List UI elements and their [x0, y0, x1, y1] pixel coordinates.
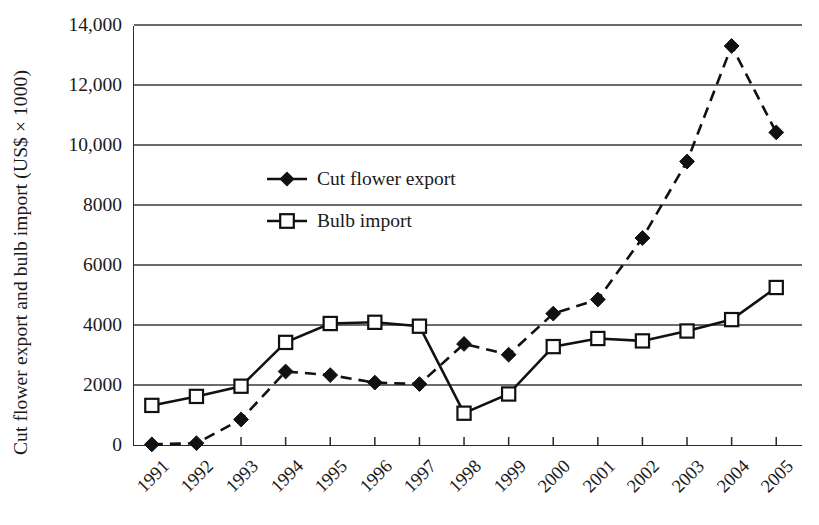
- data-point-marker: [368, 316, 381, 329]
- data-point-marker: [234, 380, 247, 393]
- legend-item-cut-flower-export: Cut flower export: [266, 166, 456, 192]
- filled-diamond-marker-icon: [266, 168, 308, 190]
- data-point-marker: [680, 324, 693, 337]
- data-point-marker: [145, 399, 158, 412]
- data-point-marker: [323, 368, 338, 383]
- open-square-marker-icon: [266, 210, 308, 232]
- x-tick-label: 2005: [757, 456, 798, 497]
- x-tick-label: 1999: [489, 456, 530, 497]
- data-point-marker: [590, 292, 605, 307]
- data-point-marker: [680, 154, 695, 169]
- x-tick-label: 2002: [623, 456, 664, 497]
- data-point-marker: [457, 407, 470, 420]
- data-point-marker: [769, 125, 784, 140]
- y-tick-label: 4000: [83, 314, 122, 336]
- x-axis-tick-marks: [152, 437, 776, 445]
- x-tick-label: 1996: [356, 456, 397, 497]
- legend-item-bulb-import: Bulb import: [266, 208, 412, 234]
- data-point-marker: [636, 334, 649, 347]
- data-point-marker: [547, 340, 560, 353]
- x-axis-tick-labels: 1991199219931994199519961997199819992000…: [133, 446, 802, 525]
- x-tick-label: 1993: [222, 456, 263, 497]
- data-point-marker: [234, 412, 249, 427]
- series-layer: [144, 39, 783, 452]
- data-point-marker: [324, 317, 337, 330]
- data-point-marker: [501, 347, 516, 362]
- line-chart-figure: Cut flower export and bulb import (US$ ×…: [0, 0, 819, 525]
- x-tick-label: 2003: [668, 456, 709, 497]
- y-tick-label: 10,000: [68, 134, 122, 156]
- x-tick-label: 2004: [712, 456, 753, 497]
- legend-label-cut-flower-export: Cut flower export: [317, 168, 456, 190]
- data-point-marker: [279, 336, 292, 349]
- y-tick-label: 14,000: [68, 14, 122, 36]
- y-tick-label: 8000: [83, 194, 122, 216]
- x-tick-label: 2001: [579, 456, 620, 497]
- x-tick-label: 1991: [133, 456, 174, 497]
- y-tick-label: 0: [112, 434, 122, 456]
- legend-label-bulb-import: Bulb import: [317, 210, 412, 232]
- data-point-marker: [413, 320, 426, 333]
- x-tick-label: 1995: [311, 456, 352, 497]
- data-point-marker: [190, 390, 203, 403]
- data-point-marker: [725, 313, 738, 326]
- data-point-marker: [724, 39, 739, 54]
- data-point-marker: [367, 375, 382, 390]
- data-point-marker: [770, 281, 783, 294]
- x-tick-label: 1997: [400, 456, 441, 497]
- y-tick-label: 6000: [83, 254, 122, 276]
- x-tick-label: 1994: [266, 456, 307, 497]
- data-point-marker: [591, 332, 604, 345]
- y-tick-label: 2000: [83, 374, 122, 396]
- y-tick-label: 12,000: [68, 74, 122, 96]
- y-axis-tick-labels: 0200040006000800010,00012,00014,000: [42, 0, 128, 525]
- data-point-marker: [502, 387, 515, 400]
- x-tick-label: 1998: [445, 456, 486, 497]
- chart-legend: Cut flower export Bulb import: [266, 166, 496, 242]
- y-axis-title: Cut flower export and bulb import (US$ ×…: [0, 0, 42, 525]
- x-tick-label: 2000: [534, 456, 575, 497]
- y-axis-title-text: Cut flower export and bulb import (US$ ×…: [10, 70, 32, 455]
- data-point-marker: [412, 377, 427, 392]
- x-tick-label: 1992: [177, 456, 218, 497]
